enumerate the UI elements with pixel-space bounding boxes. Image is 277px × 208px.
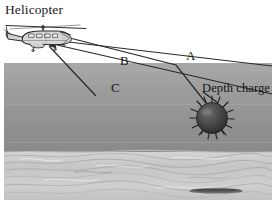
- path-label-b: B: [120, 53, 129, 69]
- helicopter-label: Helicopter: [5, 2, 63, 18]
- water-region: [4, 63, 272, 153]
- scene-svg: [0, 0, 277, 208]
- path-label-c: C: [111, 80, 120, 96]
- path-b-line: [60, 37, 272, 66]
- depth-charge-label: Depth charge: [202, 81, 270, 96]
- seafloor-region: [4, 150, 272, 200]
- path-label-a: A: [186, 48, 195, 64]
- figure-canvas: Helicopter Depth charge A B C: [0, 0, 277, 208]
